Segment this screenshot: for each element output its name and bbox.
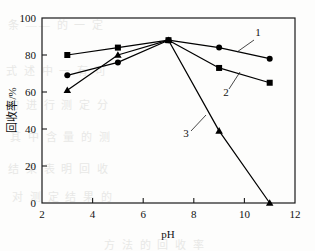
series-3: 3 (64, 36, 274, 205)
x-axis-title: pH (161, 228, 175, 240)
data-point-triangle (64, 86, 72, 93)
figure-container: 条 —— 的 一 定式 述 中 一 有 可的 进 行 测 定 分其 中 含 量 … (0, 0, 315, 251)
y-tick-label: 20 (25, 160, 37, 172)
data-point-square (64, 52, 70, 58)
series-line (67, 40, 269, 83)
y-tick-label: 80 (25, 49, 37, 61)
series-line (67, 40, 269, 203)
series-label-1: 1 (255, 26, 261, 38)
data-point-circle (64, 72, 70, 78)
x-tick-label: 4 (90, 208, 96, 220)
data-point-circle (267, 56, 273, 62)
x-tick-label: 6 (140, 208, 146, 220)
series-label-leader (237, 40, 254, 52)
data-point-square (267, 80, 273, 86)
data-point-square (115, 45, 121, 51)
x-tick-label: 2 (39, 208, 45, 220)
series-label-2: 2 (223, 86, 229, 98)
x-tick-label: 12 (290, 208, 301, 220)
y-tick-label: 100 (20, 12, 37, 24)
x-tick-label: 10 (239, 208, 251, 220)
x-axis-tick-labels: 24681012 (39, 208, 300, 220)
data-point-circle (216, 45, 222, 51)
series-label-leader (191, 115, 206, 131)
data-point-circle (115, 59, 121, 65)
y-tick-label: 0 (31, 197, 37, 209)
data-series-layer: 123 (64, 26, 274, 206)
y-tick-label: 40 (25, 123, 37, 135)
y-axis-title: 回收率/% (5, 87, 18, 132)
series-label-leader (229, 72, 240, 89)
y-axis-tick-labels: 020406080100 (20, 12, 37, 209)
x-axis-ticks (93, 198, 245, 203)
plot-frame (42, 18, 295, 203)
data-point-triangle (215, 127, 223, 134)
data-point-square (216, 65, 222, 71)
series-line (67, 40, 269, 75)
y-axis-ticks (42, 55, 47, 166)
y-tick-label: 60 (25, 86, 37, 98)
x-tick-label: 8 (191, 208, 197, 220)
recovery-vs-ph-chart: 24681012 020406080100 pH 回收率/% 123 (0, 0, 315, 251)
series-label-3: 3 (183, 127, 189, 139)
